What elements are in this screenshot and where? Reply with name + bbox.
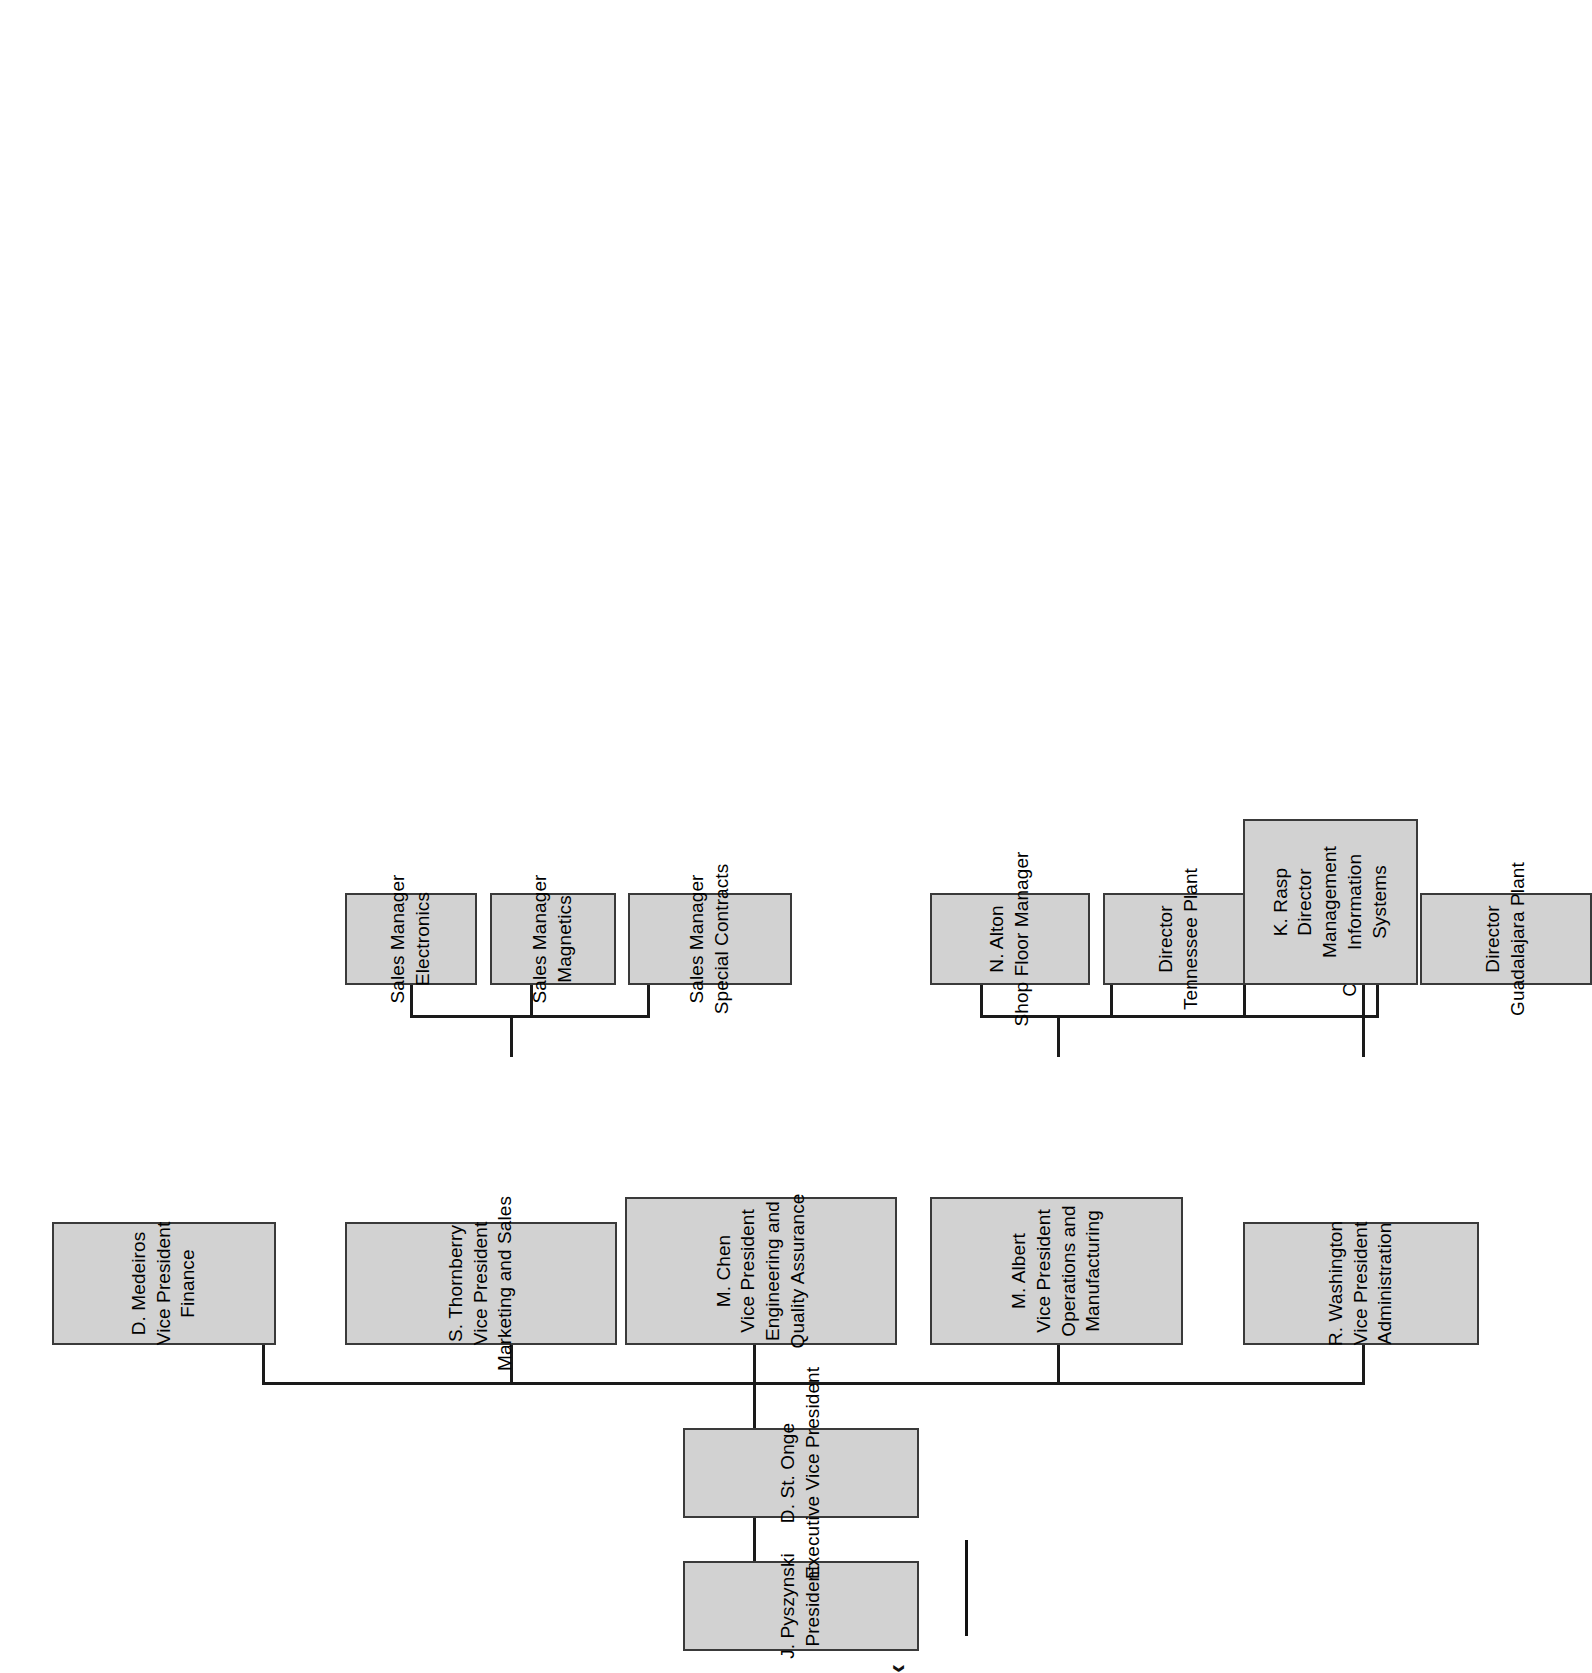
connector-operations-dir-guadalajara — [1376, 985, 1379, 1018]
node-vp-marketing-line-1: Vice President — [469, 1222, 494, 1346]
node-sm-electronics-line-1: Electronics — [411, 892, 436, 986]
connector-trunk-vp-engineering — [753, 1345, 756, 1385]
connector-trunk-vp-operations — [1057, 1345, 1060, 1385]
connector-trunk-vp-admin — [1362, 1345, 1365, 1385]
node-evp[interactable]: D. St. Onge Executive Vice President — [683, 1428, 919, 1518]
node-dir-mis-line-2: Management — [1318, 846, 1343, 958]
node-dir-guadalajara-line-0: Director — [1481, 905, 1506, 972]
node-shop-floor-line-0: N. Alton — [985, 905, 1010, 972]
node-director-mis[interactable]: K. Rasp Director Management Information … — [1243, 819, 1418, 985]
node-vp-engineering-line-1: Vice President — [736, 1209, 761, 1333]
node-shop-floor-line-1: Shop Floor Manager — [1010, 851, 1035, 1026]
node-evp-line-0: D. St. Onge — [776, 1423, 801, 1523]
connector-operations-dir-calgary — [1243, 985, 1246, 1018]
node-sm-special-line-0: Sales Manager — [685, 874, 710, 1003]
node-sales-manager-special-contracts[interactable]: Sales Manager Special Contracts — [628, 893, 792, 985]
node-vp-operations[interactable]: M. Albert Vice President Operations and … — [930, 1197, 1183, 1345]
node-vp-finance-line-1: Vice President — [152, 1222, 177, 1346]
node-director-tennessee-plant[interactable]: Director Tennessee Plant — [1103, 893, 1255, 985]
connector-trunk-vp-finance — [262, 1345, 265, 1385]
node-vp-operations-line-2: Operations and — [1057, 1205, 1082, 1336]
node-vp-marketing-line-0: S. Thornberry — [444, 1225, 469, 1342]
connector-operations-stub — [1057, 1015, 1060, 1057]
node-vp-operations-line-3: Manufacturing — [1081, 1210, 1106, 1332]
node-director-guadalajara-plant[interactable]: Director Guadalajara Plant — [1420, 893, 1592, 985]
node-dir-guadalajara-line-1: Guadalajara Plant — [1506, 862, 1531, 1016]
node-sm-electronics-line-0: Sales Manager — [386, 874, 411, 1003]
node-dir-mis-line-0: K. Rasp — [1269, 868, 1294, 936]
node-vp-admin-line-1: Vice President — [1349, 1222, 1374, 1346]
node-vp-finance-line-0: D. Medeiros — [127, 1232, 152, 1336]
node-vp-marketing-line-2: Marketing and Sales — [493, 1196, 518, 1371]
connector-operations-bus — [980, 1015, 1379, 1018]
node-vp-engineering-line-0: M. Chen — [712, 1235, 737, 1308]
page-footer: ‹ — [0, 1540, 1006, 1673]
node-shop-floor-manager[interactable]: N. Alton Shop Floor Manager — [930, 893, 1090, 985]
node-dir-mis-line-1: Director — [1293, 868, 1318, 935]
node-sm-special-line-1: Special Contracts — [710, 864, 735, 1015]
connector-operations-shop-floor — [980, 985, 983, 1018]
node-vp-admin-line-0: R. Washington — [1324, 1221, 1349, 1346]
node-vp-admin-line-2: Administration — [1373, 1223, 1398, 1345]
node-dir-tennessee-line-0: Director — [1154, 905, 1179, 972]
node-dir-mis-line-4: Systems — [1368, 865, 1393, 939]
connector-evp-trunk — [753, 1383, 756, 1428]
node-vp-admin[interactable]: R. Washington Vice President Administrat… — [1243, 1222, 1479, 1345]
node-vp-finance-line-2: Finance — [176, 1249, 201, 1317]
node-vp-engineering-line-3: Quality Assurance — [786, 1194, 811, 1349]
node-vp-finance[interactable]: D. Medeiros Vice President Finance — [52, 1222, 276, 1345]
node-vp-marketing[interactable]: S. Thornberry Vice President Marketing a… — [345, 1222, 617, 1345]
node-vp-operations-line-1: Vice President — [1032, 1209, 1057, 1333]
connector-marketing-stub — [510, 1015, 513, 1057]
footer-rule — [965, 1540, 968, 1636]
node-vp-operations-line-0: M. Albert — [1007, 1233, 1032, 1309]
node-sales-manager-electronics[interactable]: Sales Manager Electronics — [345, 893, 477, 985]
node-dir-mis-line-3: Information — [1343, 854, 1368, 950]
connector-operations-dir-tennessee — [1110, 985, 1113, 1018]
node-sm-magnetics-line-0: Sales Manager — [528, 874, 553, 1003]
connector-marketing-sm-special — [647, 985, 650, 1018]
node-sales-manager-magnetics[interactable]: Sales Manager Magnetics — [490, 893, 616, 985]
footer-caption: ‹ — [877, 1540, 917, 1673]
node-vp-engineering-line-2: Engineering and — [761, 1201, 786, 1341]
node-dir-tennessee-line-1: Tennessee Plant — [1179, 868, 1204, 1010]
node-vp-engineering[interactable]: M. Chen Vice President Engineering and Q… — [625, 1197, 897, 1345]
node-sm-magnetics-line-1: Magnetics — [553, 895, 578, 983]
